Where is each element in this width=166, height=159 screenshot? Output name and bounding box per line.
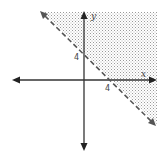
y-axis-bottom-arrow-icon: [81, 143, 88, 151]
inequality-graph: y x 4 4: [0, 0, 166, 159]
x-intercept-label: 4: [105, 84, 110, 93]
y-intercept-label: 4: [74, 53, 79, 62]
y-axis-label: y: [90, 11, 97, 21]
x-axis-left-arrow-icon: [12, 77, 20, 84]
shaded-region: [42, 12, 157, 124]
x-axis-label: x: [141, 69, 146, 79]
